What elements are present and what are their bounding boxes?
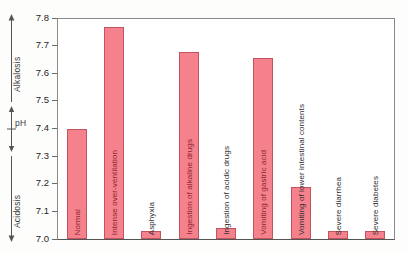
- bar-slot: Intense over-ventilation: [104, 18, 124, 239]
- bar[interactable]: [365, 231, 385, 239]
- bar-slot: Severe diarrhea: [328, 18, 348, 239]
- y-axis-tick-label: 7.0: [36, 233, 49, 244]
- y-axis-tick-label: 7.4: [36, 122, 49, 133]
- bar[interactable]: [141, 231, 161, 239]
- y-axis-tick-label: 7.6: [36, 67, 49, 78]
- bar-category-label: Ingestion of acidic drugs: [222, 146, 231, 235]
- bar[interactable]: [216, 228, 236, 239]
- bar[interactable]: [179, 52, 199, 239]
- bar-slot: Ingestion of alkaline drugs: [179, 18, 199, 239]
- y-axis-tick-label: 7.2: [36, 177, 49, 188]
- y-axis-tick-label: 7.3: [36, 150, 49, 161]
- bar-slot: Severe diabetes: [365, 18, 385, 239]
- bar-slot: Ingestion of acidic drugs: [216, 18, 236, 239]
- y-axis-tick-label: 7.5: [36, 94, 49, 105]
- y-axis: 7.87.77.67.57.47.37.27.17.0: [0, 18, 57, 240]
- bar-category-label: Severe diarrhea: [334, 177, 343, 235]
- bar-slot: Vomiting of lower intestinal contents: [291, 18, 311, 239]
- bar-slot: Normal: [67, 18, 87, 239]
- bar[interactable]: [253, 58, 273, 240]
- bar[interactable]: [291, 187, 311, 239]
- y-axis-tick-label: 7.8: [36, 12, 49, 23]
- bar[interactable]: [328, 231, 348, 239]
- bar[interactable]: [67, 129, 87, 239]
- bar-slot: Asphyxia: [141, 18, 161, 239]
- ph-disorders-bar-chart: Alkalosis pH Acidosis 7.87.77.67.57.47.3…: [0, 0, 408, 254]
- y-axis-tick-label: 7.7: [36, 39, 49, 50]
- bar-category-label: Severe diabetes: [371, 176, 380, 235]
- y-axis-tick-label: 7.1: [36, 205, 49, 216]
- bars-container: NormalIntense over-ventilationAsphyxiaIn…: [58, 18, 394, 239]
- bar[interactable]: [104, 27, 124, 239]
- bar-slot: Vomiting of gastric acid: [253, 18, 273, 239]
